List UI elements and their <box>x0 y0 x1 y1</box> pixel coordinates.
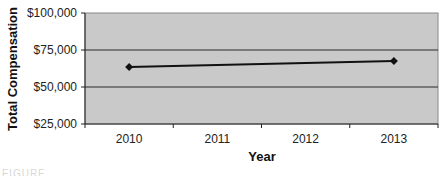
figure-caption: FIGURE <box>2 168 46 176</box>
x-axis-ticks: 2010201120122013 <box>85 124 438 146</box>
x-axis-title: Year <box>248 149 275 164</box>
plot-area <box>85 13 438 124</box>
x-tick-label: 2011 <box>204 132 230 146</box>
y-axis-ticks: $25,000$50,000$75,000$100,000 <box>27 6 85 131</box>
x-tick-label: 2012 <box>292 132 319 146</box>
y-tick-label: $50,000 <box>34 80 78 94</box>
y-tick-label: $25,000 <box>34 117 78 131</box>
y-tick-label: $100,000 <box>27 6 77 20</box>
y-tick-label: $75,000 <box>34 43 78 57</box>
x-tick-label: 2010 <box>116 132 143 146</box>
y-axis-title: Total Compensation <box>5 7 20 131</box>
line-chart: $25,000$50,000$75,000$100,000 2010201120… <box>0 0 443 176</box>
x-tick-label: 2013 <box>381 132 408 146</box>
